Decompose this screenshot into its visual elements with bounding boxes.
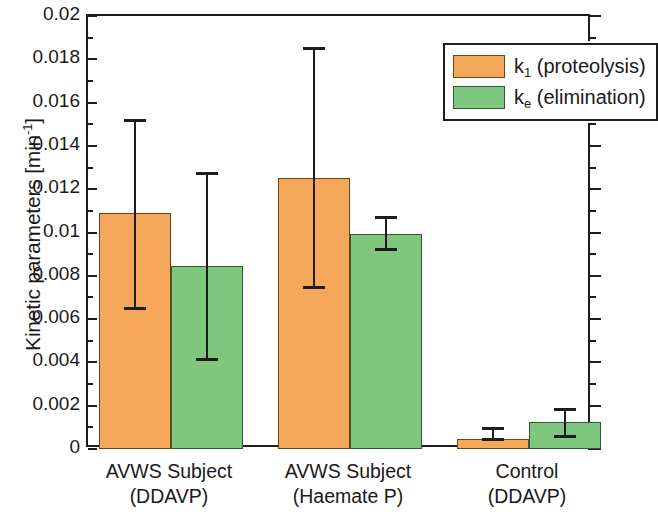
y-axis-major-tick (588, 15, 601, 17)
y-axis-major-tick (88, 448, 97, 450)
x-axis-category-line: AVWS Subject (106, 459, 232, 484)
legend-description: (elimination) (531, 86, 645, 108)
y-axis-minor-tick (588, 123, 596, 125)
y-axis-minor-tick (88, 340, 93, 342)
x-axis-category-label: AVWS Subject(Haemate P) (285, 459, 411, 509)
y-axis-major-tick (588, 318, 601, 320)
legend-label: ke (elimination) (514, 86, 646, 109)
y-axis-major-tick (588, 275, 601, 277)
error-bar-cap-upper (303, 47, 325, 50)
y-axis-tick-label: 0.004 (0, 349, 80, 371)
y-axis-minor-tick (588, 37, 596, 39)
error-bar-line (134, 120, 136, 308)
error-bar-cap-upper (124, 119, 146, 122)
y-axis-tick-label: 0.012 (0, 176, 80, 198)
legend-symbol: k (514, 55, 524, 77)
y-axis-major-tick (88, 145, 97, 147)
y-axis-major-tick (88, 188, 97, 190)
x-axis-category-line: (DDAVP) (106, 484, 232, 509)
error-bar-cap-lower (124, 307, 146, 310)
y-axis-minor-tick (88, 167, 93, 169)
y-axis-major-tick (588, 405, 601, 407)
y-axis-major-tick (588, 232, 601, 234)
y-axis-minor-tick (588, 340, 596, 342)
error-bar-cap-lower (482, 438, 504, 441)
y-axis-tick-label: 0 (0, 436, 80, 458)
x-axis-category-line: (DDAVP) (488, 484, 567, 509)
y-axis-minor-tick (88, 80, 93, 82)
error-bar-cap-lower (303, 286, 325, 289)
x-axis-category-line: (Haemate P) (285, 484, 411, 509)
y-axis-tick-label: 0.018 (0, 46, 80, 68)
y-axis-minor-tick (588, 296, 596, 298)
y-axis-tick-label: 0.006 (0, 306, 80, 328)
error-bar-line (564, 409, 566, 436)
y-axis-title-tail: ] (21, 118, 44, 124)
y-axis-major-tick (88, 361, 97, 363)
legend-description: (proteolysis) (531, 55, 645, 77)
y-axis-tick-label: 0.02 (0, 3, 80, 25)
x-axis-category-label: Control(DDAVP) (488, 459, 567, 509)
error-bar-cap-lower (196, 358, 218, 361)
error-bar-line (313, 48, 315, 286)
legend-symbol: k (514, 86, 524, 108)
error-bar-cap-upper (482, 427, 504, 430)
plot-area: k1 (proteolysis)ke (elimination) (86, 14, 590, 447)
error-bar-line (206, 173, 208, 359)
legend-item: ke (elimination) (453, 82, 646, 113)
legend-subscript: 1 (524, 65, 531, 80)
x-axis-category-label: AVWS Subject(DDAVP) (106, 459, 232, 509)
y-axis-major-tick (88, 102, 97, 104)
y-axis-tick-label: 0.016 (0, 90, 80, 112)
error-bar-cap-upper (196, 172, 218, 175)
legend-subscript: e (524, 96, 531, 111)
y-axis-major-tick (588, 145, 601, 147)
y-axis-tick-label: 0.014 (0, 133, 80, 155)
y-axis-major-tick (88, 405, 97, 407)
y-axis-major-tick (88, 15, 97, 17)
error-bar-cap-upper (375, 216, 397, 219)
y-axis-tick-label: 0.002 (0, 393, 80, 415)
y-axis-major-tick (88, 232, 97, 234)
y-axis-tick-label: 0.008 (0, 263, 80, 285)
legend-swatch (453, 55, 505, 78)
y-axis-minor-tick (88, 253, 93, 255)
x-axis-category-line: Control (488, 459, 567, 484)
y-axis-minor-tick (588, 210, 596, 212)
y-axis-minor-tick (588, 383, 596, 385)
legend-item: k1 (proteolysis) (453, 51, 646, 82)
x-axis-category-line: AVWS Subject (285, 459, 411, 484)
chart-legend: k1 (proteolysis)ke (elimination) (443, 43, 658, 121)
error-bar-cap-lower (375, 248, 397, 251)
y-axis-minor-tick (88, 383, 93, 385)
y-axis-minor-tick (588, 167, 596, 169)
y-axis-minor-tick (88, 426, 93, 428)
y-axis-minor-tick (88, 296, 93, 298)
legend-label: k1 (proteolysis) (514, 55, 646, 78)
y-axis-minor-tick (88, 123, 93, 125)
bar-ke (350, 234, 422, 449)
y-axis-major-tick (88, 318, 97, 320)
y-axis-major-tick (88, 58, 97, 60)
y-axis-minor-tick (588, 253, 596, 255)
y-axis-minor-tick (88, 210, 93, 212)
y-axis-tick-label: 0.01 (0, 220, 80, 242)
error-bar-line (385, 217, 387, 248)
legend-swatch (453, 86, 505, 109)
error-bar-cap-upper (554, 408, 576, 411)
error-bar-cap-lower (554, 435, 576, 438)
y-axis-major-tick (588, 361, 601, 363)
y-axis-major-tick (88, 275, 97, 277)
y-axis-major-tick (588, 188, 601, 190)
y-axis-minor-tick (88, 37, 93, 39)
